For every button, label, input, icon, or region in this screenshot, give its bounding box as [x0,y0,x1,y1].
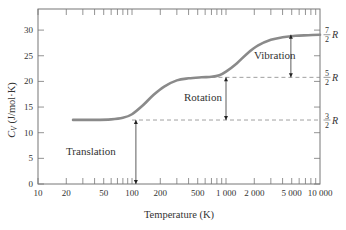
annotation-translation: Translation [66,145,116,157]
fraction-numerator: 5 [325,69,329,78]
fraction-denominator: 2 [325,121,329,130]
fraction-numerator: 7 [325,26,329,35]
r-symbol: R [331,29,338,40]
arrow-head [224,77,228,81]
r-symbol: R [331,72,338,83]
arrow-head [134,180,138,184]
reference-lines: 32R52R72R [132,26,338,129]
x-tick-label: 500 [191,188,205,198]
fraction-label: 52R [324,69,339,87]
y-tick-label: 0 [29,179,34,189]
fraction-denominator: 2 [325,35,329,44]
x-axis-label: Temperature (K) [144,209,215,221]
x-tick-label: 10 000 [308,188,333,198]
y-axis-label: CV (J/mol·K) [6,82,19,138]
cv-temperature-chart: 1020501002005001 0002 0005 00010 0000510… [0,0,346,230]
y-tick-label: 10 [24,128,34,138]
y-tick-label: 5 [29,153,34,163]
y-label-units: (J/mol·K) [6,82,18,127]
fraction-numerator: 3 [325,112,329,121]
arrow-head [224,116,228,120]
plot-frame [38,9,320,184]
x-tick-label: 10 [34,188,44,198]
r-symbol: R [331,115,338,126]
x-tick-label: 50 [99,188,109,198]
x-tick-label: 100 [125,188,139,198]
svg-text:CV (J/mol·K): CV (J/mol·K) [6,82,19,138]
x-tick-label: 5 000 [282,188,303,198]
x-tick-label: 2 000 [244,188,265,198]
y-tick-label: 20 [24,76,34,86]
annotation-vibration: Vibration [254,49,296,61]
arrow-head [134,120,138,124]
annotation-rotation: Rotation [184,91,222,103]
y-tick-label: 15 [24,102,34,112]
x-tick-label: 20 [62,188,72,198]
fraction-denominator: 2 [325,78,329,87]
y-tick-label: 25 [24,51,34,61]
arrow-head [289,73,293,77]
y-tick-label: 30 [24,25,34,35]
fraction-label: 72R [324,26,339,44]
fraction-label: 32R [324,112,339,130]
axes-box [38,9,320,184]
x-tick-label: 1 000 [216,188,237,198]
x-tick-label: 200 [154,188,168,198]
